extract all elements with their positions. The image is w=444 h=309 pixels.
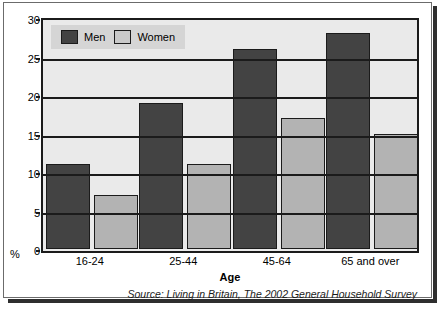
y-tick-mark-25	[36, 58, 40, 60]
x-tick-label-65-and-over: 65 and over	[341, 255, 399, 267]
gridline-15	[43, 136, 417, 138]
chart-legend: Men Women	[51, 25, 185, 49]
y-tick-mark-0	[36, 250, 40, 252]
bar-men-16-24	[46, 164, 90, 249]
x-tick-label-25-44: 25-44	[169, 255, 197, 267]
gridline-25	[43, 59, 417, 61]
bar-men-65-and-over	[326, 33, 370, 249]
bar-women-25-44	[187, 164, 231, 249]
y-tick-mark-15	[36, 135, 40, 137]
y-tick-label-15: 15	[6, 130, 40, 142]
y-tick-label-0: 0	[6, 245, 40, 257]
gridline-5	[43, 213, 417, 215]
legend-swatch-men-icon	[61, 30, 78, 44]
legend-swatch-women-icon	[114, 30, 131, 44]
bar-women-65-and-over	[374, 134, 418, 250]
y-tick-mark-20	[36, 96, 40, 98]
y-tick-label-25: 25	[6, 53, 40, 65]
y-tick-label-5: 5	[6, 207, 40, 219]
legend-item-women: Women	[114, 30, 175, 44]
x-tick-label-16-24: 16-24	[76, 255, 104, 267]
plot-wrapper	[41, 18, 419, 253]
chart-figure: % 051015202530 Men Women 16-2425-4445-64…	[3, 2, 432, 298]
figure-shadow-right	[433, 6, 437, 303]
gridline-10	[43, 174, 417, 176]
y-tick-mark-5	[36, 212, 40, 214]
source-note: Source: Living in Britain, The 2002 Gene…	[128, 288, 418, 300]
legend-item-men: Men	[61, 30, 105, 44]
x-axis: 16-2425-4445-6465 and over	[41, 255, 419, 271]
y-tick-label-20: 20	[6, 91, 40, 103]
y-tick-label-10: 10	[6, 168, 40, 180]
gridline-20	[43, 97, 417, 99]
y-tick-mark-30	[36, 19, 40, 21]
legend-label-women: Women	[137, 31, 175, 43]
y-tick-label-30: 30	[6, 14, 40, 26]
plot-area	[41, 18, 419, 253]
legend-label-men: Men	[84, 31, 105, 43]
y-tick-mark-10	[36, 173, 40, 175]
bar-men-45-64	[233, 49, 277, 249]
x-tick-label-45-64: 45-64	[263, 255, 291, 267]
bar-women-16-24	[94, 195, 138, 249]
y-axis: % 051015202530	[4, 18, 40, 253]
x-axis-title: Age	[41, 271, 419, 283]
bar-women-45-64	[281, 118, 325, 249]
